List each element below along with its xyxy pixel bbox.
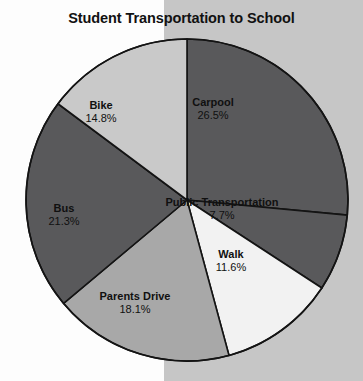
pie-label-value: 18.1% bbox=[65, 303, 205, 316]
pie-label-name: Bike bbox=[31, 99, 171, 112]
pie-label-bus: Bus21.3% bbox=[0, 202, 134, 228]
pie-label-value: 7.7% bbox=[152, 209, 292, 222]
pie-label-name: Public Transportation bbox=[152, 196, 292, 209]
pie-chart bbox=[0, 0, 363, 381]
pie-label-parents-drive: Parents Drive18.1% bbox=[65, 290, 205, 316]
pie-label-value: 11.6% bbox=[161, 261, 301, 274]
pie-label-value: 14.8% bbox=[31, 112, 171, 125]
chart-canvas: Student Transportation to School Carpool… bbox=[0, 0, 363, 381]
pie-label-name: Walk bbox=[161, 248, 301, 261]
pie-label-bike: Bike14.8% bbox=[31, 99, 171, 125]
pie-label-name: Bus bbox=[0, 202, 134, 215]
pie-label-name: Parents Drive bbox=[65, 290, 205, 303]
pie-slice-carpool[interactable] bbox=[187, 39, 348, 215]
pie-label-walk: Walk11.6% bbox=[161, 248, 301, 274]
pie-label-value: 21.3% bbox=[0, 215, 134, 228]
pie-label-public-transportation: Public Transportation7.7% bbox=[152, 196, 292, 222]
